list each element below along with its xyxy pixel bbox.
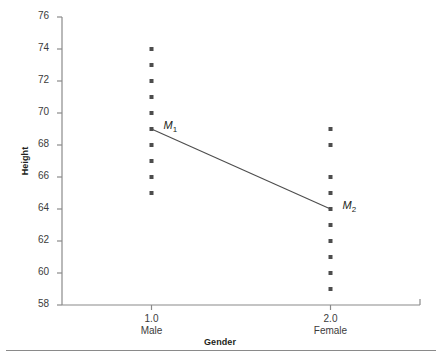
footer-divider [6, 350, 436, 351]
scatter-plot [0, 0, 442, 358]
data-point-marker [150, 143, 154, 147]
data-point-marker [329, 143, 333, 147]
data-point-marker [329, 255, 333, 259]
y-tick-label: 72 [23, 74, 49, 85]
mean-label-subscript: 1 [173, 125, 177, 134]
x-tick-label: 2.0 [301, 313, 361, 324]
data-point-marker [329, 223, 333, 227]
data-point-marker [150, 191, 154, 195]
mean-label-2: M2 [343, 199, 357, 214]
y-tick-label: 60 [23, 266, 49, 277]
data-point-marker [329, 175, 333, 179]
mean-label-subscript: 2 [352, 205, 356, 214]
data-point-marker [150, 111, 154, 115]
data-point-marker [329, 127, 333, 131]
data-point-marker [150, 63, 154, 67]
x-tick-label: 1.0 [122, 313, 182, 324]
mean-label-1: M1 [164, 119, 178, 134]
data-point-marker [329, 271, 333, 275]
data-point-marker [150, 47, 154, 51]
data-point-marker [150, 159, 154, 163]
x-tick-category-label: Male [122, 325, 182, 336]
chart-figure: Height Gender 58606264666870727476 1.0Ma… [0, 0, 442, 358]
data-point-marker [150, 79, 154, 83]
axes [57, 17, 420, 310]
data-point-marker [150, 175, 154, 179]
y-tick-label: 62 [23, 234, 49, 245]
y-tick-label: 58 [23, 298, 49, 309]
y-tick-label: 66 [23, 170, 49, 181]
data-point-marker [329, 287, 333, 291]
data-point-marker [329, 191, 333, 195]
y-tick-label: 76 [23, 10, 49, 21]
x-tick-category-label: Female [301, 325, 361, 336]
data-point-marker [329, 239, 333, 243]
y-tick-label: 68 [23, 138, 49, 149]
y-tick-label: 74 [23, 42, 49, 53]
mean-connector-line [152, 129, 331, 209]
data-point-marker [150, 95, 154, 99]
mean-label-symbol: M [343, 199, 352, 211]
y-tick-label: 70 [23, 106, 49, 117]
y-tick-label: 64 [23, 202, 49, 213]
mean-line-segment [152, 129, 331, 209]
x-axis-title: Gender [165, 337, 275, 347]
mean-label-symbol: M [164, 119, 173, 131]
